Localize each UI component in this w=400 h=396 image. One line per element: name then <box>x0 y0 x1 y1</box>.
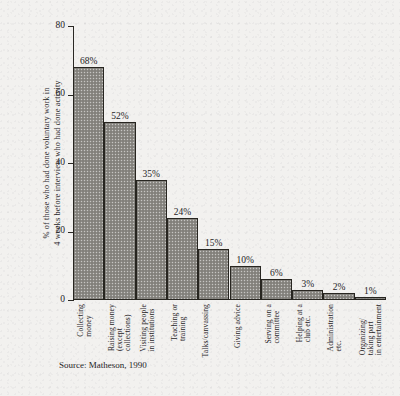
x-axis-category-label: Helping at a club etc. <box>296 304 312 342</box>
y-axis-tick-mark <box>68 26 74 27</box>
x-axis-category-label: Visiting people in institutions <box>140 304 156 352</box>
bar: 52% <box>104 122 135 300</box>
bar-chart-figure: % of those who had done voluntary work i… <box>0 0 400 396</box>
bar: 10% <box>230 266 261 300</box>
bar: 35% <box>136 180 167 300</box>
bar: 2% <box>323 293 354 300</box>
bar: 3% <box>292 290 323 300</box>
x-axis-category-label: Raising money (except collections) <box>108 304 133 351</box>
bar-value-label: 52% <box>111 111 128 121</box>
bar-value-label: 3% <box>301 279 314 289</box>
bar-value-label: 15% <box>205 238 222 248</box>
x-axis-category-label: Talks/canvassing <box>202 304 210 357</box>
x-axis-category-label: Administration etc. <box>327 304 343 351</box>
x-axis-category-label: Serving on a committee <box>265 304 281 344</box>
bar-value-label: 24% <box>174 207 191 217</box>
x-axis-category-label: Teaching or training <box>171 304 187 341</box>
x-axis-category-label: Organizing/ taking part in entertainment <box>359 304 384 355</box>
bar-value-label: 35% <box>143 169 160 179</box>
y-axis-tick-label: 20 <box>56 225 66 235</box>
y-axis-tick-label: 40 <box>56 157 66 167</box>
source-note: Source: Matheson, 1990 <box>59 360 147 370</box>
bar-value-label: 2% <box>333 282 346 292</box>
bar-value-label: 68% <box>80 56 97 66</box>
x-axis-category-label: Giving advice <box>234 304 242 348</box>
bar-value-label: 6% <box>270 268 283 278</box>
x-axis-category-label: Collecting money <box>77 304 93 337</box>
y-axis-tick-label: 60 <box>56 88 66 98</box>
bar-value-label: 10% <box>236 255 253 265</box>
bar-value-label: 1% <box>364 286 377 296</box>
plot-area: 020406080 68%52%35%24%15%10%6%3%2%1% <box>73 26 386 300</box>
y-axis-tick-label: 0 <box>60 294 65 304</box>
bar: 1% <box>355 297 386 300</box>
y-axis-tick-mark <box>68 300 74 301</box>
y-axis-tick-label: 80 <box>56 20 66 30</box>
bar: 68% <box>73 67 104 300</box>
bar: 15% <box>198 249 229 300</box>
bar: 24% <box>167 218 198 300</box>
bar: 6% <box>261 279 292 300</box>
